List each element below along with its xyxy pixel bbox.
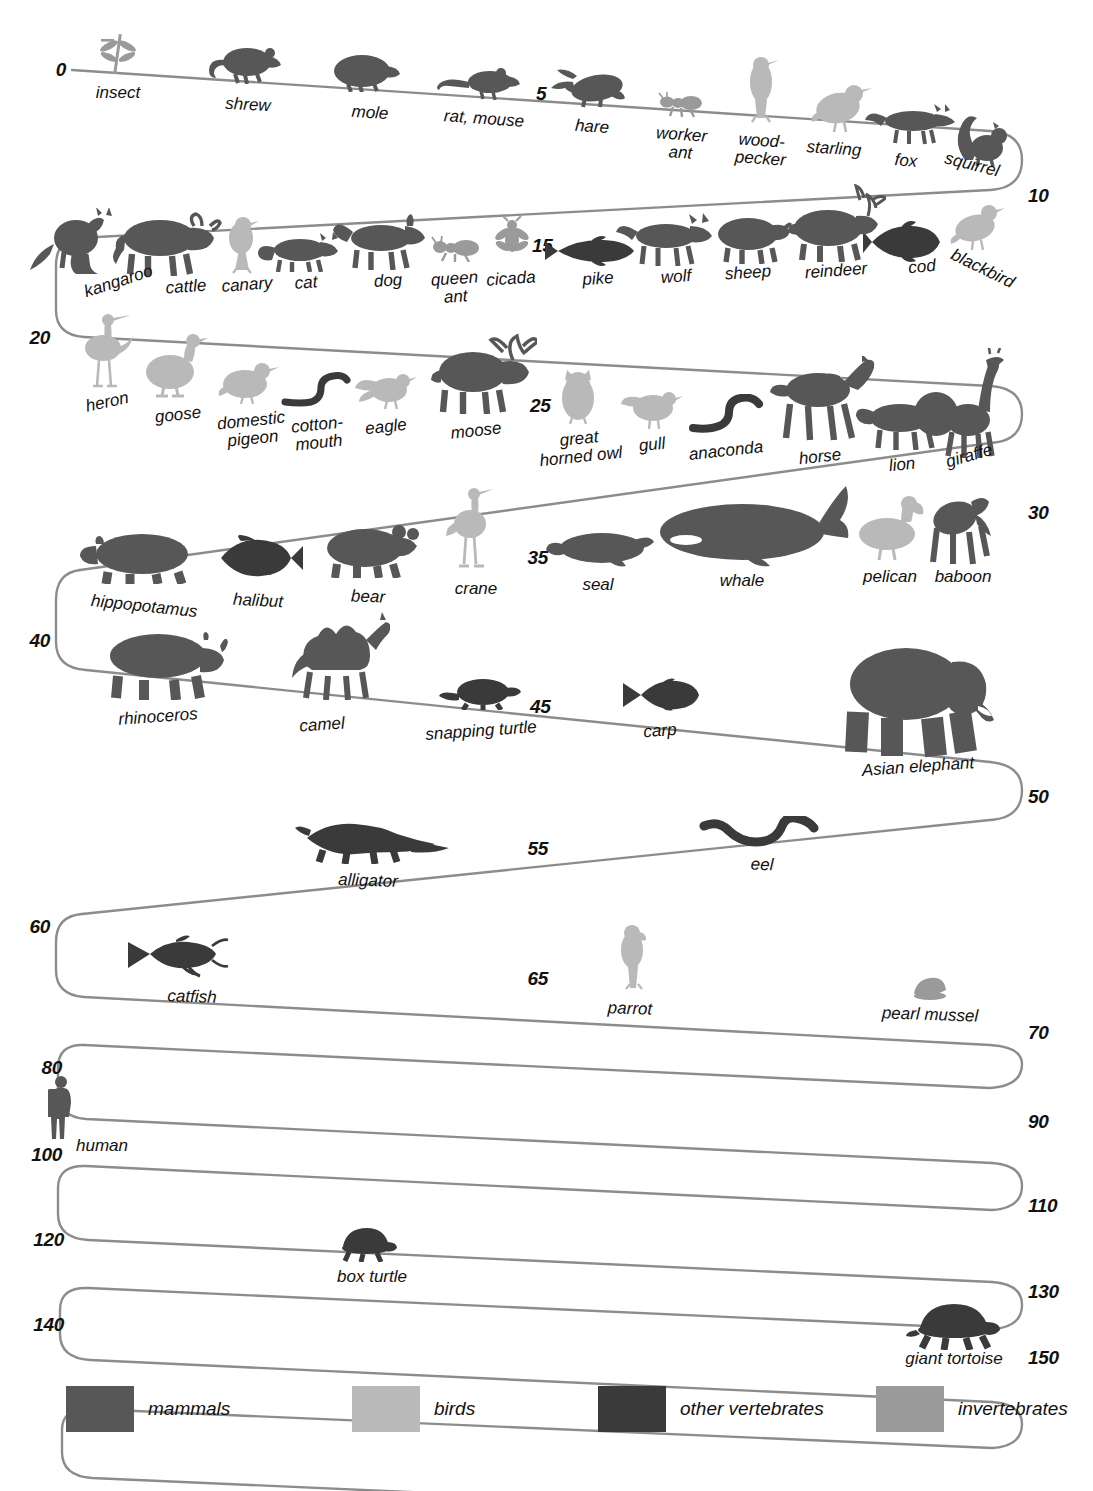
label-heron: heron [84,389,130,415]
pearl-mussel-icon [908,974,952,1000]
gull-icon [621,386,683,430]
label-goose: goose [154,404,202,426]
cottonmouth-icon [281,372,351,408]
tick-60: 60 [29,916,50,938]
giant-tortoise-icon [906,1300,1002,1350]
parrot-icon [612,924,652,990]
tick-10: 10 [1028,185,1049,207]
label-pike: pike [582,269,614,289]
tick-100: 100 [31,1144,62,1166]
queen-ant-icon [430,236,482,262]
label-sheep: sheep [724,262,771,283]
legend-swatch-birds [352,1386,420,1432]
label-parrot: parrot [607,999,652,1018]
tick-35: 35 [527,547,548,569]
legend-swatch-mammals [66,1386,134,1432]
insect-icon [98,32,138,76]
tick-70: 70 [1028,1022,1049,1044]
legend-label-mammals: mammals [148,1398,230,1420]
domestic-pigeon-icon [217,358,279,404]
pike-icon [544,234,636,268]
label-great-horned-owl: great horned owl [537,426,623,470]
legend-swatch-invertebrates [876,1386,944,1432]
giraffe-icon [934,348,1008,458]
moose-icon [419,330,537,414]
asian-elephant-icon [834,636,994,758]
label-halibut: halibut [233,591,284,611]
human-icon [48,1075,74,1141]
tick-5: 5 [536,83,546,105]
tick-20: 20 [29,327,50,349]
label-cottonmouth: cotton- mouth [290,413,345,454]
label-rat-mouse: rat, mouse [443,107,524,130]
label-moose: moose [450,419,503,442]
label-cod: cod [908,257,937,277]
label-queen-ant: queen ant [430,268,480,307]
label-insect: insect [96,84,140,102]
label-gull: gull [638,435,666,455]
label-baboon: baboon [935,568,992,586]
label-snapping-turtle: snapping turtle [425,718,537,743]
label-human: human [76,1137,128,1155]
tick-55: 55 [527,838,548,860]
label-box-turtle: box turtle [337,1268,407,1286]
label-domestic-pigeon: domestic pigeon [216,409,287,451]
cat-icon [256,228,350,272]
tick-140: 140 [33,1314,64,1336]
heron-icon [77,312,135,392]
camel-icon [282,612,390,700]
rat-mouse-icon [435,64,521,100]
label-fox: fox [894,151,918,171]
halibut-icon [207,534,303,580]
label-dog: dog [373,271,403,291]
label-horse: horse [798,446,842,468]
label-catfish: catfish [167,987,217,1006]
goose-icon [140,332,208,398]
tick-150: 150 [1028,1347,1059,1369]
label-giant-tortoise: giant tortoise [905,1350,1002,1368]
label-hare: hare [574,117,609,137]
box-turtle-icon [333,1224,399,1262]
tick-90: 90 [1028,1111,1049,1133]
pelican-icon [851,494,925,562]
rhinoceros-icon [96,626,228,700]
lifespan-timeline-infographic: 0 5 10 15 20 25 30 35 40 45 50 55 60 65 … [0,0,1093,1491]
whale-icon [650,484,850,568]
woodpecker-icon [741,56,781,124]
seal-icon [546,526,654,570]
label-cat: cat [294,273,318,292]
label-eel: eel [750,856,773,874]
cicada-icon [492,216,532,256]
tick-65: 65 [527,968,548,990]
label-bear: bear [351,587,386,606]
tick-30: 30 [1028,502,1049,524]
legend-swatch-other-vertebrates [598,1386,666,1432]
anaconda-icon [689,394,763,434]
label-anaconda: anaconda [688,438,764,463]
crane-icon [442,486,498,572]
label-whale: whale [720,572,764,590]
label-cattle: cattle [165,277,207,297]
blackbird-icon [949,200,1005,252]
label-reindeer: reindeer [804,260,867,282]
tick-45: 45 [530,696,551,718]
tick-40: 40 [29,630,50,652]
label-hippopotamus: hippopotamus [90,592,198,621]
label-crane: crane [455,580,498,598]
tick-0: 0 [56,59,66,81]
fox-icon [865,104,963,146]
tick-110: 110 [1028,1195,1057,1217]
baboon-icon [921,484,995,566]
alligator-icon [293,814,449,864]
canary-icon [221,216,265,274]
tick-130: 130 [1028,1281,1059,1303]
label-camel: camel [299,714,345,735]
catfish-icon [126,932,230,978]
legend-item-other-vertebrates: other vertebrates [598,1386,824,1432]
mole-icon [326,50,402,92]
tick-50: 50 [1028,786,1049,808]
hippopotamus-icon [80,528,204,584]
bear-icon [311,522,421,578]
label-cicada: cicada [486,268,536,289]
snapping-turtle-icon [439,676,523,710]
